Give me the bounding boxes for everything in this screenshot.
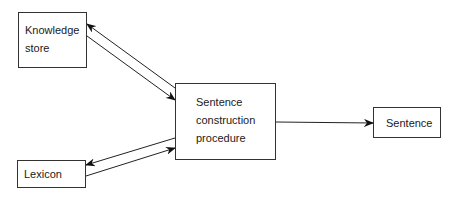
scp-label-line3: procedure bbox=[196, 129, 275, 147]
scp-label-line1: Sentence bbox=[196, 93, 275, 111]
sentence-label: Sentence bbox=[386, 114, 440, 132]
sentence-construction-node: Sentence construction procedure bbox=[175, 83, 276, 160]
lexicon-label: Lexicon bbox=[24, 165, 85, 183]
arrow-scp-to-lexicon bbox=[86, 138, 175, 165]
knowledge-store-node: Knowledge store bbox=[18, 12, 87, 68]
knowledge-store-label-line1: Knowledge bbox=[25, 21, 86, 39]
arrow-scp-to-knowledge bbox=[87, 24, 175, 88]
arrow-scp-to-sentence bbox=[276, 122, 373, 123]
lexicon-node: Lexicon bbox=[17, 160, 86, 188]
knowledge-store-label-line2: store bbox=[25, 39, 86, 57]
arrow-lexicon-to-scp bbox=[86, 148, 175, 176]
scp-label-line2: construction bbox=[196, 111, 275, 129]
sentence-node: Sentence bbox=[373, 107, 441, 138]
arrow-knowledge-to-scp bbox=[87, 36, 175, 100]
